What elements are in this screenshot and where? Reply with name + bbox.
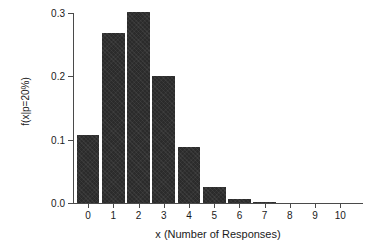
y-tick-label: 0.3 [25,8,65,19]
bar-series [73,13,363,203]
x-tick-mark [340,204,341,208]
y-tick-label: 0.2 [25,71,65,82]
y-axis-title: f(x|p=20%) [14,0,36,203]
x-tick-mark [214,204,215,208]
x-tick-mark [139,204,140,208]
x-tick-label: 10 [325,210,355,221]
x-tick-mark [189,204,190,208]
bar [203,187,226,203]
y-tick-mark [68,203,73,204]
x-tick-mark [290,204,291,208]
y-tick-label: 0.0 [25,198,65,209]
bar [102,33,125,203]
bar [253,202,276,203]
x-tick-mark [265,204,266,208]
bar [77,135,100,203]
bar [178,147,201,203]
bar [228,199,251,203]
y-axis-title-text: f(x|p=20%) [20,77,31,125]
x-tick-mark [113,204,114,208]
y-tick-label: 0.1 [25,134,65,145]
x-tick-mark [88,204,89,208]
bar [152,76,175,203]
x-tick-mark [239,204,240,208]
binomial-pmf-chart: f(x|p=20%) 0.00.10.20.3 012345678910 x (… [0,0,377,252]
x-axis-title: x (Number of Responses) [73,228,363,240]
bar [127,12,150,203]
x-tick-mark [315,204,316,208]
x-tick-mark [164,204,165,208]
x-axis-line [73,203,363,204]
